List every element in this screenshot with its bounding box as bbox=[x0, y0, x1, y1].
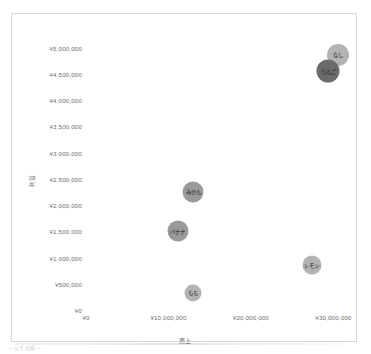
y-axis-tick-label: ¥1,000,000 bbox=[50, 254, 82, 261]
x-axis-tick-label: ¥10,000,000 bbox=[150, 314, 186, 321]
y-axis-tick-label: ¥1,500,000 bbox=[50, 228, 82, 235]
chart-caption: — 以下凡例 — bbox=[8, 345, 41, 351]
x-axis-tick-label: ¥20,000,000 bbox=[233, 314, 269, 321]
bubble-みかん[interactable]: みかん bbox=[183, 181, 204, 202]
bubble-レモン[interactable]: レモン bbox=[302, 256, 321, 275]
y-axis-tick-label: ¥2,500,000 bbox=[50, 175, 82, 182]
bubble-りんご[interactable]: りんご bbox=[317, 60, 340, 83]
bubble-label: バナナ bbox=[170, 227, 185, 235]
x-axis-tick-label: ¥0 bbox=[82, 314, 89, 321]
y-axis-tick-label: ¥4,000,000 bbox=[50, 97, 82, 104]
y-axis-tick-labels: ¥5,000,000¥4,500,000¥4,000,000¥3,500,000… bbox=[12, 37, 82, 310]
bubble-label: レモン bbox=[304, 261, 319, 269]
bubble-label: みかん bbox=[186, 188, 201, 196]
y-axis-tick-label: ¥2,000,000 bbox=[50, 202, 82, 209]
x-axis-tick-label: ¥30,000,000 bbox=[315, 314, 351, 321]
bubble-label: もも bbox=[188, 289, 198, 297]
y-axis-tick-label: ¥3,000,000 bbox=[50, 149, 82, 156]
bubble-バナナ[interactable]: バナナ bbox=[167, 221, 188, 242]
y-axis-tick-label: ¥4,500,000 bbox=[50, 70, 82, 77]
y-axis-title: 利益 bbox=[28, 175, 36, 187]
bubble-label: りんご bbox=[321, 67, 336, 75]
frame-shadow bbox=[14, 343, 344, 345]
x-axis-tick-labels: ¥0¥10,000,000¥20,000,000¥30,000,000 bbox=[86, 314, 354, 328]
y-axis-tick-label: ¥3,500,000 bbox=[50, 123, 82, 130]
plot-area: なしりんごみかんバナナレモンもも bbox=[86, 37, 354, 310]
chart-frame: ¥5,000,000¥4,500,000¥4,000,000¥3,500,000… bbox=[11, 13, 357, 342]
y-axis-tick-label: ¥500,000 bbox=[55, 280, 82, 287]
y-axis-tick-label: ¥5,000,000 bbox=[50, 44, 82, 51]
bubble-chart-screen: ¥5,000,000¥4,500,000¥4,000,000¥3,500,000… bbox=[0, 0, 371, 354]
y-axis-tick-label: ¥0 bbox=[75, 307, 82, 314]
bubble-label: なし bbox=[333, 51, 343, 59]
bubble-もも[interactable]: もも bbox=[185, 284, 202, 301]
